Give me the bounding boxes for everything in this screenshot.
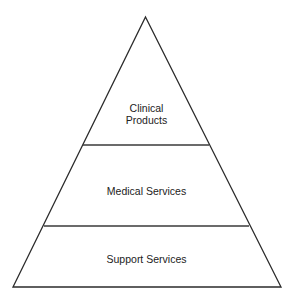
pyramid-outline xyxy=(13,17,281,287)
level-top-label-line2: Products xyxy=(0,114,293,126)
level-top-label-line1: Clinical xyxy=(0,102,293,114)
level-bottom-label: Support Services xyxy=(0,253,293,265)
level-middle-label: Medical Services xyxy=(0,185,293,197)
